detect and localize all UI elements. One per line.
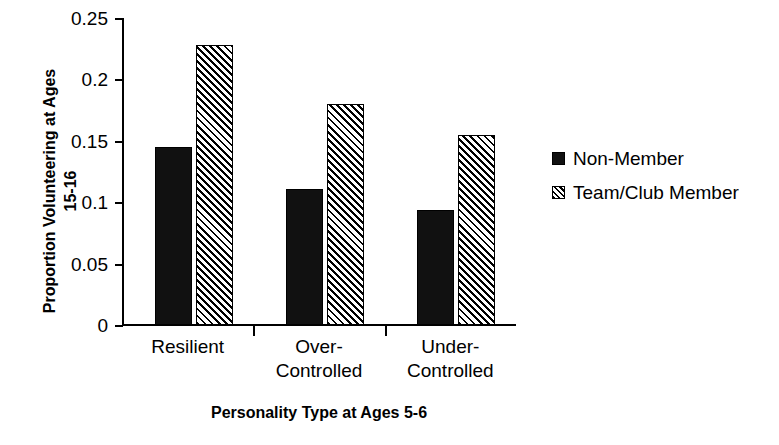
legend-swatch-hatched-icon	[552, 186, 565, 199]
bar	[196, 45, 233, 325]
plot-area	[122, 18, 516, 325]
y-axis-tick-label: 0.05	[44, 254, 108, 273]
x-axis-title: Personality Type at Ages 5-6	[122, 404, 516, 422]
y-axis-tick-mark	[115, 202, 123, 204]
y-axis-line	[122, 18, 124, 325]
x-axis-category-label-line: Controlled	[253, 359, 384, 383]
legend-item-label: Non-Member	[573, 149, 684, 168]
x-axis-category-label-line: Over-	[253, 335, 384, 359]
x-axis-category-labels: ResilientOver-ControlledUnder-Controlled	[122, 335, 516, 397]
y-axis-tick-mark	[115, 18, 123, 20]
y-axis-tick-mark	[115, 264, 123, 266]
x-axis-category-label-line: Controlled	[385, 359, 516, 383]
bar	[458, 135, 495, 325]
legend-item: Team/Club Member	[552, 177, 777, 207]
x-axis-category-label: Under-Controlled	[385, 335, 516, 384]
y-axis-tick-label: 0.2	[44, 70, 108, 89]
bar	[417, 210, 454, 325]
y-axis-tick-label: 0.1	[44, 193, 108, 212]
x-axis-category-label: Over-Controlled	[253, 335, 384, 384]
y-axis-tick-label: 0.25	[44, 9, 108, 28]
legend-swatch-solid-icon	[552, 152, 565, 165]
legend-item: Non-Member	[552, 143, 777, 173]
bar	[155, 147, 192, 325]
bar-chart-figure: Proportion Volunteering at Ages 15-16 00…	[0, 0, 779, 445]
legend: Non-MemberTeam/Club Member	[552, 143, 777, 211]
y-axis-tick-mark	[115, 79, 123, 81]
bar	[327, 104, 364, 325]
x-axis-category-label-line: Under-	[385, 335, 516, 359]
x-axis-category-label: Resilient	[122, 335, 253, 359]
y-axis-tick-label: 0	[44, 316, 108, 335]
bar	[286, 189, 323, 325]
y-axis-tick-label: 0.15	[44, 131, 108, 150]
x-axis-category-label-line: Resilient	[122, 335, 253, 359]
y-axis-tick-labels: 00.050.10.150.20.25	[44, 0, 108, 445]
y-axis-tick-mark	[115, 325, 123, 327]
y-axis-tick-mark	[115, 141, 123, 143]
legend-item-label: Team/Club Member	[573, 183, 739, 202]
